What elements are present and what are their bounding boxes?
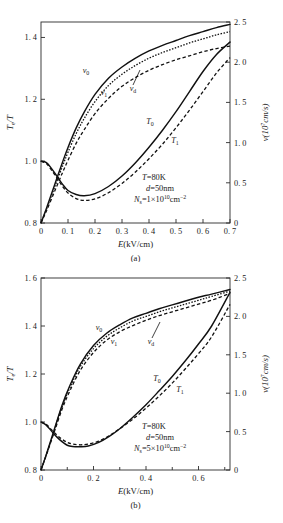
svg-text:2. 5: 2. 5	[234, 274, 246, 283]
svg-text:1. 0: 1. 0	[25, 418, 37, 427]
svg-text:Ns=5×1010cm−2: Ns=5×1010cm−2	[133, 443, 186, 454]
svg-text:(b): (b)	[130, 500, 140, 510]
curve-label-v1: v1	[111, 337, 118, 347]
svg-text:0. 2: 0. 2	[89, 227, 101, 236]
svg-text:0. 1: 0. 1	[62, 227, 74, 236]
svg-text:1. 0: 1. 0	[25, 157, 37, 166]
chart-a: 00. 10. 20. 30. 40. 50. 60. 70. 81. 01. …	[0, 0, 283, 262]
svg-text:0. 4: 0. 4	[143, 227, 156, 236]
curve-label-T1: T1	[171, 136, 179, 146]
svg-text:0. 5: 0. 5	[234, 179, 246, 188]
svg-text:1. 4: 1. 4	[25, 322, 38, 331]
svg-text:1. 5: 1. 5	[234, 98, 246, 107]
curve-label-v0: v0	[83, 66, 90, 76]
svg-text:E(kV/cm): E(kV/cm)	[117, 486, 153, 496]
svg-text:0. 3: 0. 3	[116, 227, 128, 236]
svg-text:E(kV/cm): E(kV/cm)	[117, 239, 153, 249]
svg-text:0. 6: 0. 6	[197, 227, 209, 236]
svg-text:Te/T: Te/T	[5, 365, 16, 381]
panel-a: 00. 10. 20. 30. 40. 50. 60. 70. 81. 01. …	[0, 0, 283, 262]
curve-label-T0: T0	[153, 374, 161, 384]
svg-text:1. 2: 1. 2	[25, 370, 37, 379]
svg-text:1. 0: 1. 0	[234, 139, 246, 148]
svg-text:0. 5: 0. 5	[234, 428, 246, 437]
curve-label-vd: vd	[148, 337, 155, 347]
svg-text:0: 0	[39, 474, 43, 483]
svg-text:0. 8: 0. 8	[25, 219, 37, 228]
svg-text:0: 0	[234, 219, 238, 228]
curve-label-T0: T0	[146, 117, 154, 127]
svg-text:1. 0: 1. 0	[234, 389, 246, 398]
svg-text:0: 0	[39, 227, 43, 236]
curve-label-vd: vd	[130, 84, 137, 94]
svg-text:T=80K: T=80K	[142, 173, 166, 182]
curve-label-v1: v1	[101, 88, 108, 98]
svg-text:0: 0	[234, 466, 238, 475]
chart-b: 00. 20. 40. 60. 81. 01. 21. 41. 600. 51.…	[0, 262, 283, 523]
svg-text:0. 4: 0. 4	[140, 474, 153, 483]
svg-text:0. 6: 0. 6	[192, 474, 204, 483]
svg-text:T=80K: T=80K	[142, 422, 166, 431]
svg-text:0. 2: 0. 2	[87, 474, 99, 483]
figure-container: 00. 10. 20. 30. 40. 50. 60. 70. 81. 01. …	[0, 0, 283, 523]
svg-text:2. 0: 2. 0	[234, 312, 246, 321]
svg-text:Te/T: Te/T	[5, 114, 16, 130]
curve-label-T1: T1	[176, 385, 184, 395]
svg-text:d=50nm: d=50nm	[146, 433, 174, 442]
svg-text:0. 8: 0. 8	[25, 466, 37, 475]
panel-b: 00. 20. 40. 60. 81. 01. 21. 41. 600. 51.…	[0, 262, 283, 523]
svg-text:0. 5: 0. 5	[170, 227, 182, 236]
svg-text:Ns=1×1010cm−2: Ns=1×1010cm−2	[133, 194, 186, 205]
svg-text:2. 5: 2. 5	[234, 18, 246, 27]
svg-text:(a): (a)	[131, 253, 141, 262]
svg-text:1. 4: 1. 4	[25, 33, 38, 42]
curve-label-v0: v0	[96, 323, 103, 333]
svg-text:1. 2: 1. 2	[25, 95, 37, 104]
svg-text:v(107cm/s): v(107cm/s)	[260, 355, 270, 393]
svg-text:1. 6: 1. 6	[25, 274, 37, 283]
svg-text:d=50nm: d=50nm	[146, 184, 174, 193]
svg-text:v(107cm/s): v(107cm/s)	[260, 104, 270, 142]
svg-text:1. 5: 1. 5	[234, 351, 246, 360]
svg-text:2. 0: 2. 0	[234, 58, 246, 67]
